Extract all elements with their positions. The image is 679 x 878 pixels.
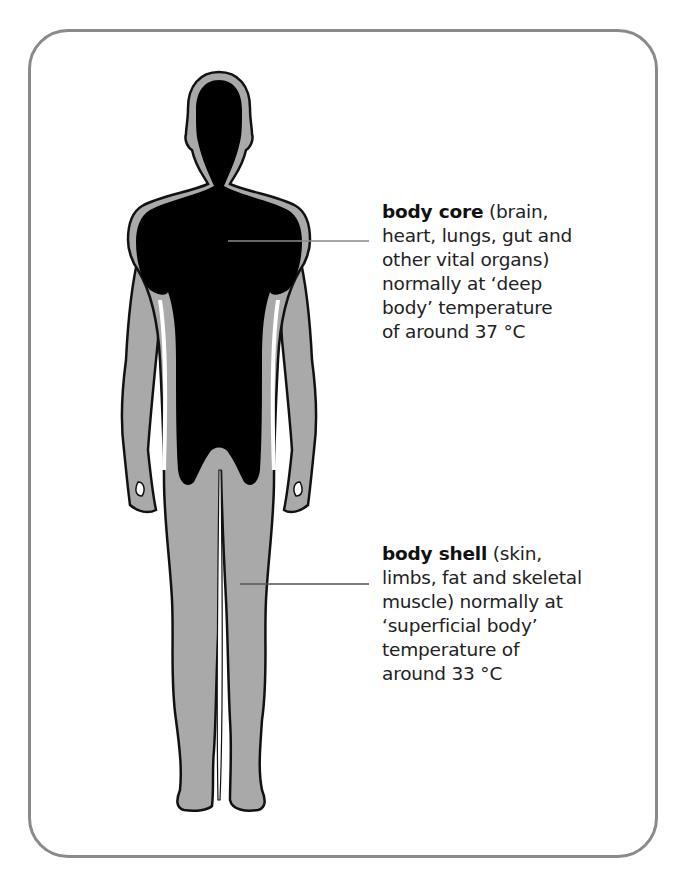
body-core-description: (brain, heart, lungs, gut and other vita… xyxy=(382,201,572,342)
human-body-figure xyxy=(0,0,679,878)
body-core-label: body core (brain, heart, lungs, gut and … xyxy=(382,200,652,344)
body-core-region xyxy=(136,80,302,485)
body-shell-label: body shell (skin, limbs, fat and skeleta… xyxy=(382,542,657,686)
body-shell-term: body shell xyxy=(382,543,487,564)
body-core-term: body core xyxy=(382,201,483,222)
body-shell-description: (skin, limbs, fat and skeletal muscle) n… xyxy=(382,543,582,684)
